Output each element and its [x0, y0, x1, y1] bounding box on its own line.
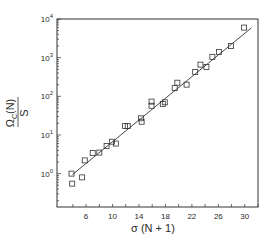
x-tick-label: 22 [187, 212, 196, 221]
data-markers [69, 25, 247, 186]
y-tick-label: 101 [41, 129, 54, 140]
x-tick-label: 26 [214, 212, 223, 221]
y-tick-label: 104 [41, 13, 54, 24]
x-axis-tick-labels: 6101418222630 [84, 212, 250, 221]
x-tick-label: 18 [161, 212, 170, 221]
x-axis-title: σ (N + 1) [131, 222, 175, 234]
x-tick-label: 10 [108, 212, 117, 221]
y-axis-title-omega: Ω [4, 119, 16, 127]
data-point-square-icon [90, 151, 95, 156]
y-tick-label: 102 [41, 90, 54, 101]
data-point-square-icon [175, 80, 180, 85]
data-point-square-icon [216, 49, 221, 54]
y-axis-ticks [57, 19, 61, 201]
x-tick-label: 14 [135, 212, 144, 221]
y-tick-label: 100 [41, 168, 54, 179]
data-point-square-icon [70, 181, 75, 186]
data-point-square-icon [242, 25, 247, 30]
x-tick-label: 30 [240, 212, 249, 221]
data-point-square-icon [198, 62, 203, 67]
data-point-square-icon [82, 158, 87, 163]
data-point-square-icon [80, 175, 85, 180]
y-axis-tick-labels: 100101102103104 [41, 13, 54, 179]
y-tick-label: 103 [41, 52, 54, 63]
y-axis-title: ΩC(N) S [4, 97, 30, 127]
y-axis-title-denominator: S [18, 109, 30, 116]
y-axis-title-suffix: (N) [4, 99, 16, 114]
x-tick-label: 6 [84, 212, 89, 221]
svg-text:ΩC(N): ΩC(N) [4, 99, 18, 128]
chart: 100101102103104 6101418222630 σ (N + 1) … [0, 0, 272, 248]
